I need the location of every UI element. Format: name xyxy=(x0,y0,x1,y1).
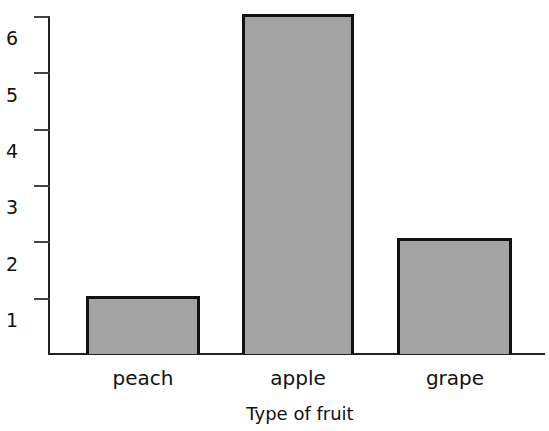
y-tick-label: 5 xyxy=(6,85,26,105)
y-tick-label: 2 xyxy=(6,254,26,274)
y-tick-label: 3 xyxy=(6,197,26,217)
y-tick-2 xyxy=(34,241,49,243)
y-tick-3 xyxy=(34,185,49,187)
x-tick-label-peach: peach xyxy=(63,366,223,390)
bar-grape xyxy=(397,238,512,354)
y-tick-label: 4 xyxy=(6,141,26,161)
x-tick-label-grape: grape xyxy=(375,366,535,390)
y-tick-label: 1 xyxy=(6,310,26,330)
y-tick-6 xyxy=(34,16,49,18)
y-tick-4 xyxy=(34,129,49,131)
bar-apple xyxy=(242,14,354,354)
y-tick-1 xyxy=(34,298,49,300)
y-tick-5 xyxy=(34,72,49,74)
bar-peach xyxy=(86,296,200,354)
y-tick-label: 6 xyxy=(6,28,26,48)
x-tick-label-apple: apple xyxy=(218,366,378,390)
x-axis-title: Type of fruit xyxy=(180,403,420,424)
